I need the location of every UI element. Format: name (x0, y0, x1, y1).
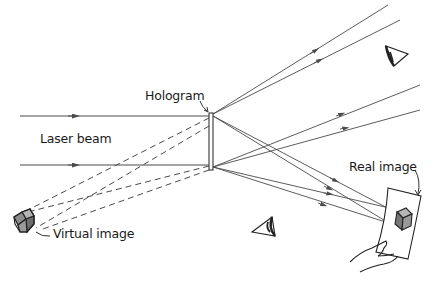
virtual-image-leader (36, 232, 50, 236)
laser-beam-label: Laser beam (40, 131, 111, 146)
eye-icon-upper (386, 46, 408, 66)
virtual-image-cube (14, 209, 34, 232)
hologram-label: Hologram (145, 88, 204, 103)
real-image-cube (395, 208, 412, 230)
hologram-plate (209, 113, 213, 170)
real-image-label: Real image (349, 159, 417, 174)
virtual-image-label: Virtual image (53, 226, 134, 241)
eye-icon-lower (252, 217, 275, 236)
diverging-rays (213, 5, 420, 167)
